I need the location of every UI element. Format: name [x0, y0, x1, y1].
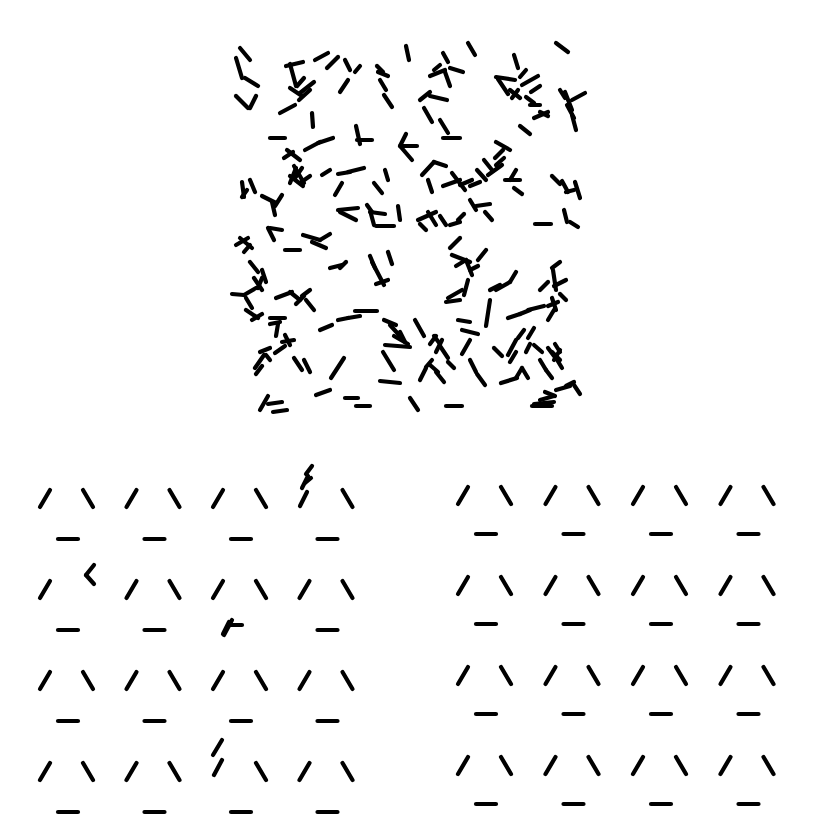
- line-segment: [250, 262, 258, 272]
- line-segment: [575, 182, 580, 198]
- line-segment: [250, 96, 256, 108]
- line-segment: [494, 348, 502, 356]
- line-segment: [445, 72, 450, 86]
- panel-grid-with-noise: [40, 466, 353, 812]
- line-segment: [520, 70, 526, 77]
- triplet-segment: [343, 490, 353, 507]
- line-segment: [484, 160, 492, 170]
- triplet-segment: [721, 667, 731, 684]
- line-segment: [428, 180, 432, 192]
- triplet-segment: [633, 487, 643, 504]
- triplet-segment: [501, 667, 511, 684]
- line-segment: [534, 402, 554, 404]
- line-segment: [240, 48, 250, 60]
- triplet-segment: [764, 757, 774, 774]
- triplet-segment: [764, 487, 774, 504]
- line-segment: [477, 170, 486, 180]
- line-segment: [552, 176, 560, 184]
- line-segment: [376, 280, 388, 284]
- line-segment: [526, 97, 534, 103]
- triplet-segment: [300, 763, 310, 780]
- line-segment: [388, 252, 392, 264]
- triplet-segment: [213, 581, 223, 598]
- line-segment: [443, 53, 448, 62]
- line-segment: [260, 348, 270, 352]
- line-segment: [462, 330, 478, 334]
- line-segment: [434, 162, 446, 166]
- triplet-segment: [127, 672, 137, 689]
- line-segment: [371, 214, 374, 225]
- triplet-segment: [40, 763, 50, 780]
- line-segment: [422, 162, 434, 175]
- triplet-segment: [458, 667, 468, 684]
- triplet-segment: [256, 490, 266, 507]
- line-segment: [380, 80, 386, 90]
- line-segment: [246, 298, 252, 308]
- triplet-segment: [501, 757, 511, 774]
- line-segment: [540, 282, 548, 290]
- triplet-segment: [83, 490, 93, 507]
- triplet-segment: [721, 577, 731, 594]
- triplet-segment: [546, 487, 556, 504]
- panel-clean-grid: [458, 487, 774, 804]
- line-segment: [380, 381, 400, 383]
- line-segment: [436, 372, 444, 382]
- line-segment: [470, 182, 480, 186]
- line-segment: [477, 374, 485, 385]
- line-segment: [545, 392, 555, 396]
- line-segment: [244, 245, 250, 252]
- line-segment: [450, 222, 460, 225]
- triplet-segment: [676, 577, 686, 594]
- line-segment: [306, 300, 314, 310]
- line-segment: [458, 320, 470, 322]
- line-segment: [355, 66, 360, 72]
- noise-segment: [86, 575, 94, 584]
- line-segment: [572, 93, 585, 100]
- triplet-segment: [256, 763, 266, 780]
- triplet-segment: [764, 667, 774, 684]
- triplet-segment: [676, 667, 686, 684]
- line-segment: [450, 238, 460, 248]
- line-segment: [528, 306, 544, 310]
- line-segment: [420, 224, 426, 230]
- triplet-segment: [300, 581, 310, 598]
- line-segment: [566, 190, 574, 192]
- line-segment: [522, 368, 528, 378]
- triplet-segment: [83, 763, 93, 780]
- line-segment: [345, 60, 350, 70]
- line-segment: [552, 262, 560, 268]
- line-segment: [522, 76, 538, 85]
- line-segment: [320, 234, 330, 240]
- line-segment: [495, 150, 503, 158]
- line-segment: [315, 53, 328, 60]
- triplet-segment: [458, 757, 468, 774]
- line-segment: [415, 320, 424, 336]
- line-segment: [450, 68, 463, 72]
- line-segment: [556, 43, 568, 52]
- noise-segment: [306, 466, 312, 474]
- triplet-segment: [721, 487, 731, 504]
- triplet-segment: [256, 581, 266, 598]
- line-segment: [534, 345, 542, 352]
- line-segment: [312, 113, 313, 127]
- perturbed-segment: [300, 492, 307, 506]
- line-segment: [406, 46, 409, 60]
- line-segment: [322, 170, 330, 175]
- line-segment: [284, 152, 293, 158]
- line-segment: [430, 96, 447, 100]
- triplet-segment: [343, 672, 353, 689]
- line-segment: [340, 262, 346, 268]
- perturbed-segment: [214, 760, 222, 775]
- line-segment: [514, 188, 522, 194]
- line-segment: [268, 402, 282, 404]
- line-segment: [335, 183, 342, 195]
- triplet-segment: [343, 581, 353, 598]
- triplet-segment: [170, 672, 180, 689]
- line-segment: [244, 288, 256, 295]
- line-segment: [385, 345, 410, 347]
- line-segment: [440, 346, 448, 358]
- line-segment: [320, 325, 332, 330]
- line-segment: [448, 290, 462, 298]
- triplet-segment: [170, 581, 180, 598]
- line-segment: [458, 214, 464, 220]
